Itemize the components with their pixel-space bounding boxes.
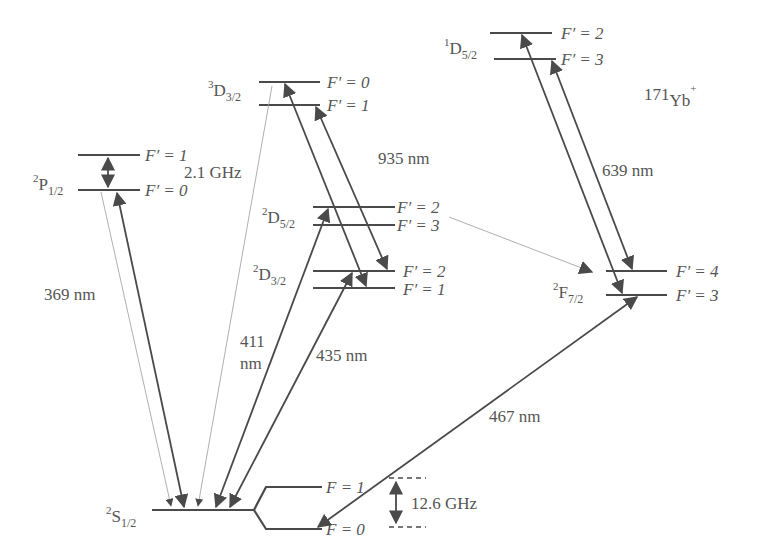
level-label-2F7/2: 2F7/2 — [553, 280, 583, 306]
3d-upper-label: F′ = 0 — [326, 73, 370, 92]
wavelength-411-line1: 411 — [240, 332, 265, 351]
3d-lower-label: F′ = 1 — [326, 96, 370, 115]
2d52-upper-label: F′ = 2 — [396, 198, 440, 217]
ion-label: 171Yb+ — [644, 82, 697, 110]
level-2P1/2: 2P1/2 F′ = 1 F′ = 0 2.1 GHz — [33, 146, 242, 200]
2d52-lower-label: F′ = 3 — [396, 216, 440, 235]
f72-upper-label: F′ = 4 — [675, 262, 719, 281]
energy-level-diagram: 2S1/2 F = 1 F = 0 12.6 GHz 2P1/2 F′ = 1 … — [0, 0, 757, 558]
wavelength-369nm: 369 nm — [44, 285, 95, 304]
decay-p-to-s-arrow — [101, 192, 171, 506]
level-line-F0 — [254, 510, 322, 529]
level-label-2S1/2: 2S1/2 — [106, 504, 136, 530]
level-label-3D3/2: 3D3/2 — [208, 78, 241, 104]
wavelength-411-line2: nm — [240, 354, 262, 373]
f72-lower-label: F′ = 3 — [675, 286, 719, 305]
level-label-2D3/2: 2D3/2 — [253, 262, 286, 288]
level-line-F1 — [152, 487, 322, 510]
ground-splitting-label: 12.6 GHz — [411, 494, 478, 513]
wavelength-935nm: 935 nm — [378, 149, 429, 168]
p-lower-label: F′ = 0 — [144, 181, 188, 200]
level-label-2P1/2: 2P1/2 — [33, 172, 63, 198]
transition-411nm-arrow — [216, 209, 328, 507]
p-splitting-label: 2.1 GHz — [184, 163, 242, 182]
decay-d-to-f-arrow — [449, 217, 592, 272]
1d-lower-label: F′ = 3 — [560, 50, 604, 69]
wavelength-435nm: 435 nm — [316, 346, 367, 365]
1d-upper-label: F′ = 2 — [560, 24, 604, 43]
level-label-1D5/2: 1D5/2 — [444, 36, 477, 62]
2d32-lower-label: F′ = 1 — [402, 280, 446, 299]
transition-369nm-arrow — [117, 193, 184, 507]
level-2D3/2: 2D3/2 F′ = 2 F′ = 1 — [253, 262, 446, 299]
p-upper-label: F′ = 1 — [144, 146, 188, 165]
wavelength-467nm: 467 nm — [489, 407, 540, 426]
level-label-2D5/2: 2D5/2 — [262, 205, 295, 231]
f1-label: F = 1 — [325, 478, 365, 497]
level-2F7/2: 2F7/2 F′ = 4 F′ = 3 — [553, 262, 719, 306]
decay-3d-to-s-arrow — [198, 86, 272, 506]
level-2S1/2: 2S1/2 F = 1 F = 0 12.6 GHz — [106, 478, 478, 539]
f0-label: F = 0 — [325, 520, 365, 539]
2d32-upper-label: F′ = 2 — [402, 262, 446, 281]
level-2D5/2: 2D5/2 F′ = 2 F′ = 3 — [262, 198, 440, 235]
wavelength-639nm: 639 nm — [602, 161, 653, 180]
transition-467nm-arrow — [318, 297, 637, 527]
level-1D5/2: 1D5/2 F′ = 2 F′ = 3 — [444, 24, 604, 69]
